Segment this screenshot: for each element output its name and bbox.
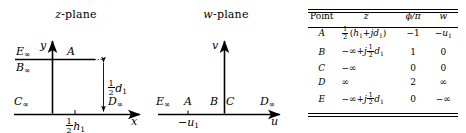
z-plane-label-C-infinity: C∞ <box>14 96 29 108</box>
table-cell-z: −∞+j12d1 <box>335 90 397 109</box>
z-plane-label-D-infinity: D∞ <box>108 96 123 108</box>
table-cell-w: −u1 <box>429 24 458 43</box>
table-cell-phi: 1 <box>398 42 429 61</box>
w-plane-label-C: C <box>226 96 234 107</box>
table-cell-point: D <box>308 75 335 89</box>
table-cell-phi: 2 <box>398 75 429 89</box>
z-plane-label-E-infinity: E∞ <box>16 46 30 58</box>
table-cell-point: E <box>308 90 335 109</box>
table-cell-w: 0 <box>429 42 458 61</box>
table-header-phi-over-pi: ϕ/π <box>398 9 429 24</box>
transformation-table-panel: Point z ϕ/π w A 12 (h1+jd1) <box>300 0 466 133</box>
z-plane-x-axis-label: x <box>131 116 137 127</box>
w-plane-label-B: B <box>210 96 218 107</box>
z-plane-y-axis-label: y <box>40 40 46 51</box>
table-bottom-rule-outer <box>308 116 458 117</box>
table-cell-point: B <box>308 42 335 61</box>
w-plane-v-axis-label: v <box>212 40 218 51</box>
table-row: A 12 (h1+jd1) −1 −u1 <box>308 24 458 43</box>
table-cell-w: ∞ <box>429 75 458 89</box>
z-plane-label-B-infinity: B∞ <box>16 62 30 74</box>
z-plane-panel: z-plane E∞ B∞ A <box>0 0 152 133</box>
table-cell-z: ∞ <box>335 75 397 89</box>
w-plane-u-axis-label: u <box>271 116 278 127</box>
w-plane-label-D-infinity: D∞ <box>260 96 275 108</box>
table-header-w: w <box>429 9 458 24</box>
table-row: B −∞+j12d1 1 0 <box>308 42 458 61</box>
z-plane-dimension-half-d1: 12d1 <box>107 79 127 97</box>
table-cell-w: −∞ <box>429 90 458 109</box>
table-header-point: Point <box>308 9 335 24</box>
table-cell-z: −∞+j12d1 <box>335 42 397 61</box>
z-plane-label-A: A <box>67 46 75 57</box>
table-row: D ∞ 2 ∞ <box>308 75 458 89</box>
table-cell-phi: −1 <box>398 24 429 43</box>
table-header-z: z <box>335 9 397 24</box>
table-cell-z: −∞ <box>335 61 397 75</box>
w-plane-panel: w-plane E∞ A B C D∞ v u −u1 <box>152 0 300 133</box>
table-cell-z: 12 (h1+jd1) <box>335 24 397 43</box>
w-plane-label-E-infinity: E∞ <box>156 96 170 108</box>
table-cell-point: C <box>308 61 335 75</box>
w-plane-label-A: A <box>184 96 192 107</box>
table-cell-w: 0 <box>429 61 458 75</box>
table-cell-point: A <box>308 24 335 43</box>
w-plane-label-minus-u1: −u1 <box>178 117 199 129</box>
table-row: C −∞ 0 0 <box>308 61 458 75</box>
z-plane-dimension-half-h1: 12h1 <box>65 117 85 133</box>
table-row: E −∞+j12d1 0 −∞ <box>308 90 458 109</box>
transformation-table: Point z ϕ/π w A 12 (h1+jd1) <box>308 9 458 108</box>
table-header-row: Point z ϕ/π w <box>308 9 458 24</box>
table-cell-phi: 0 <box>398 90 429 109</box>
table-bottom-rule-inner <box>308 113 458 114</box>
table-cell-phi: 0 <box>398 61 429 75</box>
w-plane-drawing <box>152 0 300 133</box>
